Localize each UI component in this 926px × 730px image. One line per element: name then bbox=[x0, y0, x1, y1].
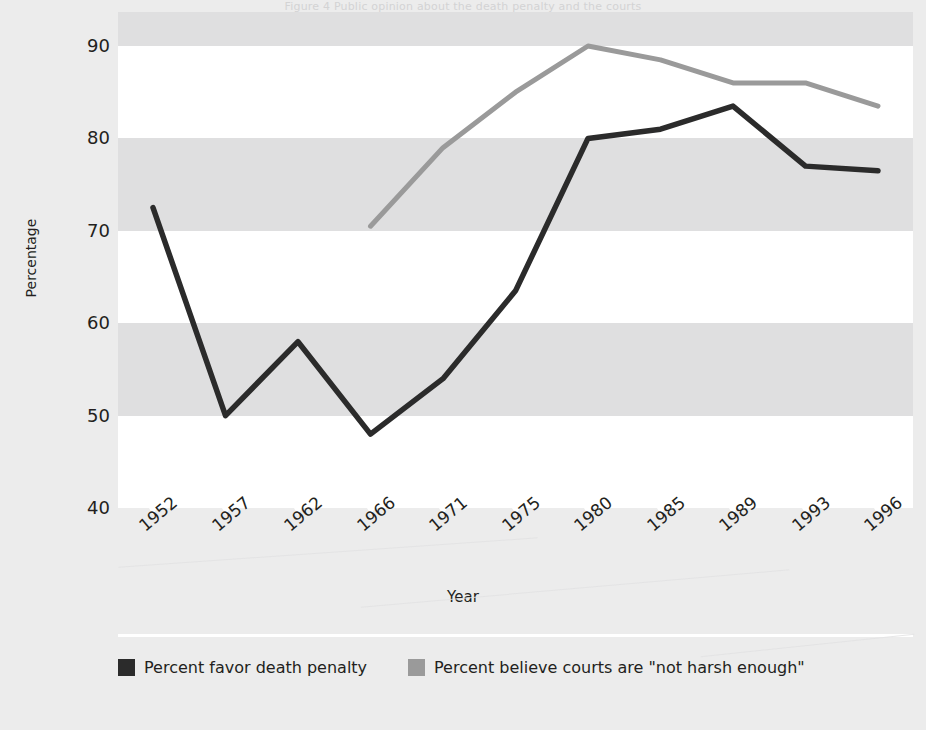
legend-item[interactable]: Percent favor death penalty bbox=[118, 658, 367, 677]
y-tick-label: 70 bbox=[70, 220, 110, 241]
legend-item[interactable]: Percent believe courts are "not harsh en… bbox=[408, 658, 805, 677]
legend-divider bbox=[118, 634, 913, 637]
legend-label: Percent believe courts are "not harsh en… bbox=[434, 658, 805, 677]
legend-swatch-icon bbox=[118, 659, 135, 676]
y-axis-label: Percentage bbox=[23, 219, 39, 298]
chart-legend: Percent favor death penaltyPercent belie… bbox=[118, 658, 913, 684]
y-tick-label: 60 bbox=[70, 312, 110, 333]
x-axis-ticks: 1952195719621966197119751980198519891993… bbox=[118, 508, 913, 598]
scan-artifact bbox=[701, 634, 915, 657]
y-tick-label: 40 bbox=[70, 497, 110, 518]
y-tick-label: 80 bbox=[70, 127, 110, 148]
y-tick-label: 90 bbox=[70, 35, 110, 56]
line-favor-death-penalty bbox=[153, 106, 878, 434]
y-tick-label: 50 bbox=[70, 405, 110, 426]
plot-area bbox=[118, 12, 913, 508]
legend-label: Percent favor death penalty bbox=[144, 658, 367, 677]
series-lines bbox=[118, 12, 913, 508]
chart-figure: Figure 4 Public opinion about the death … bbox=[0, 0, 926, 730]
y-axis-ticks: 908070605040 bbox=[58, 12, 110, 508]
legend-swatch-icon bbox=[408, 659, 425, 676]
